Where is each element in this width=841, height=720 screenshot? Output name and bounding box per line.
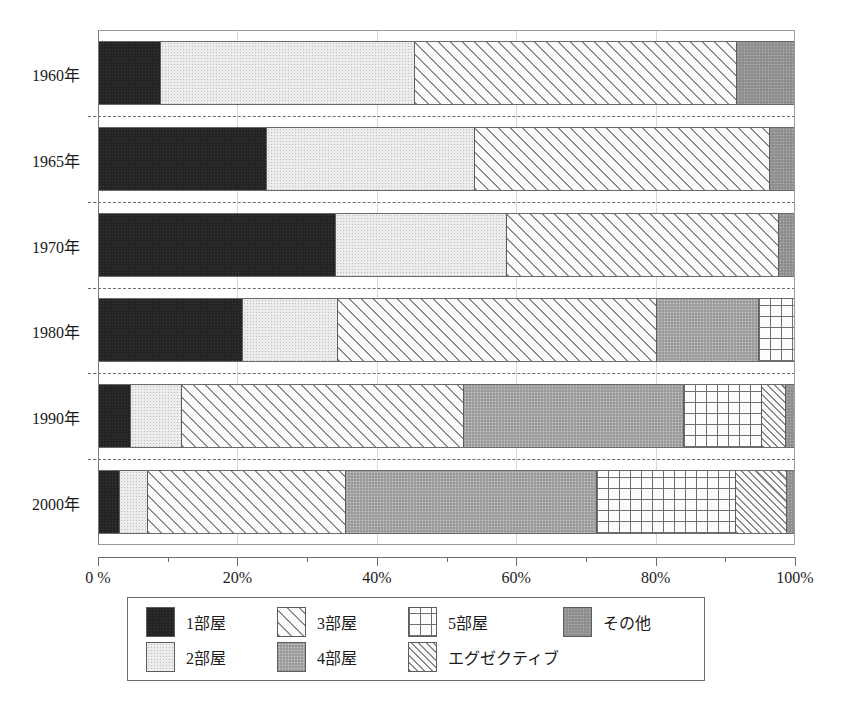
bar-row [98,470,795,534]
bar-segment [657,299,759,361]
bar-segment [736,471,787,533]
legend-swatch [408,642,437,672]
bar-segment [464,385,684,447]
legend-item: 1部屋 [146,607,273,637]
x-tick-10 [168,557,169,562]
x-tick-label: 20% [223,569,252,587]
bar-segment [120,471,148,533]
legend-label: 3部屋 [317,610,357,634]
x-tick-80 [656,557,657,566]
bar-row [98,127,795,191]
bar-row [98,384,795,448]
row-separator [88,202,795,203]
bar-segment [336,214,507,276]
x-tick-label: 100% [776,569,813,587]
x-tick-50 [447,557,448,562]
bar-segment [148,471,347,533]
bar-segment [787,471,794,533]
legend-item: 5部屋 [408,607,559,637]
legend-swatch [146,642,175,672]
y-axis-label: 2000年 [32,491,80,515]
bar-segment [182,385,464,447]
row-separator [88,373,795,374]
bar-segment [99,471,120,533]
row-separator [88,116,795,117]
bar-segment [786,385,794,447]
legend-label: エグゼクティブ [448,645,559,669]
x-tick-0 [98,557,99,566]
legend-label: その他 [603,610,651,634]
legend-swatch [408,607,437,637]
bar-segment [99,214,336,276]
x-tick-40 [377,557,378,566]
stacked-bar [98,127,795,191]
x-tick-label: 60% [502,569,531,587]
x-tick-90 [725,557,726,562]
legend-label: 5部屋 [448,610,488,634]
x-tick-100 [795,557,796,566]
legend-label: 4部屋 [317,645,357,669]
row-separator [88,459,795,460]
x-tick-30 [307,557,308,562]
legend-item: 3部屋 [277,607,404,637]
bar-row [98,213,795,277]
bar-segment [99,42,161,104]
bar-segment [507,214,779,276]
bar-row [98,298,795,362]
legend-item: その他 [563,607,690,637]
bar-segment [99,299,243,361]
bar-segment [161,42,415,104]
bar-segment [684,385,762,447]
legend-swatch [146,607,175,637]
stacked-bar [98,41,795,105]
bar-segment [267,128,476,190]
bar-segment [99,385,131,447]
legend-label: 1部屋 [186,610,226,634]
x-tick-20 [237,557,238,566]
legend-label: 2部屋 [186,645,226,669]
x-tick-label: 0 % [85,569,110,587]
bar-segment [762,385,786,447]
bar-row [98,41,795,105]
bar-segment [779,214,794,276]
x-axis-ticks: 0 %20%40%60%80%100% [98,557,795,597]
bar-segment [597,471,736,533]
bar-segment [99,128,267,190]
y-axis-label: 1970年 [32,234,80,258]
stacked-bar [98,384,795,448]
row-separator [88,288,795,289]
bar-segment [759,299,794,361]
y-axis-label: 1990年 [32,405,80,429]
y-axis-labels: 1960年1965年1970年1980年1990年2000年 [0,30,98,545]
bar-segment [131,385,182,447]
stacked-bar [98,298,795,362]
x-tick-60 [516,557,517,566]
legend-item: 2部屋 [146,642,273,672]
stacked-bar-chart: 1960年1965年1970年1980年1990年2000年 0 %20%40%… [0,0,841,720]
bar-segment [243,299,338,361]
plot-area [98,30,795,545]
chart-legend: 1部屋3部屋5部屋その他2部屋4部屋エグゼクティブ [127,597,705,681]
bar-segment [475,128,770,190]
bar-segment [415,42,737,104]
y-axis-label: 1980年 [32,319,80,343]
bar-segment [737,42,794,104]
y-axis-label: 1965年 [32,148,80,172]
bar-segment [346,471,596,533]
stacked-bar [98,470,795,534]
y-axis-label: 1960年 [32,62,80,86]
bar-segment [770,128,794,190]
x-tick-70 [586,557,587,562]
x-tick-label: 80% [641,569,670,587]
legend-swatch [277,607,306,637]
legend-swatch [277,642,306,672]
legend-item: 4部屋 [277,642,404,672]
legend-item: エグゼクティブ [408,642,559,672]
bar-segment [338,299,657,361]
stacked-bar [98,213,795,277]
x-tick-label: 40% [362,569,391,587]
legend-swatch [563,607,592,637]
